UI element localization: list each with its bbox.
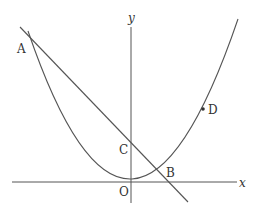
point-D-marker — [201, 107, 205, 111]
diagram: y x O A C B D — [0, 0, 259, 214]
line-ACB — [20, 27, 188, 202]
point-C-label: C — [119, 143, 128, 157]
parabola-curve — [28, 19, 238, 179]
point-D-label: D — [208, 103, 218, 117]
x-axis-label: x — [239, 176, 246, 190]
origin-label: O — [119, 185, 129, 199]
point-A-label: A — [16, 42, 26, 56]
y-axis-label: y — [127, 11, 135, 25]
point-B-label: B — [166, 166, 175, 180]
